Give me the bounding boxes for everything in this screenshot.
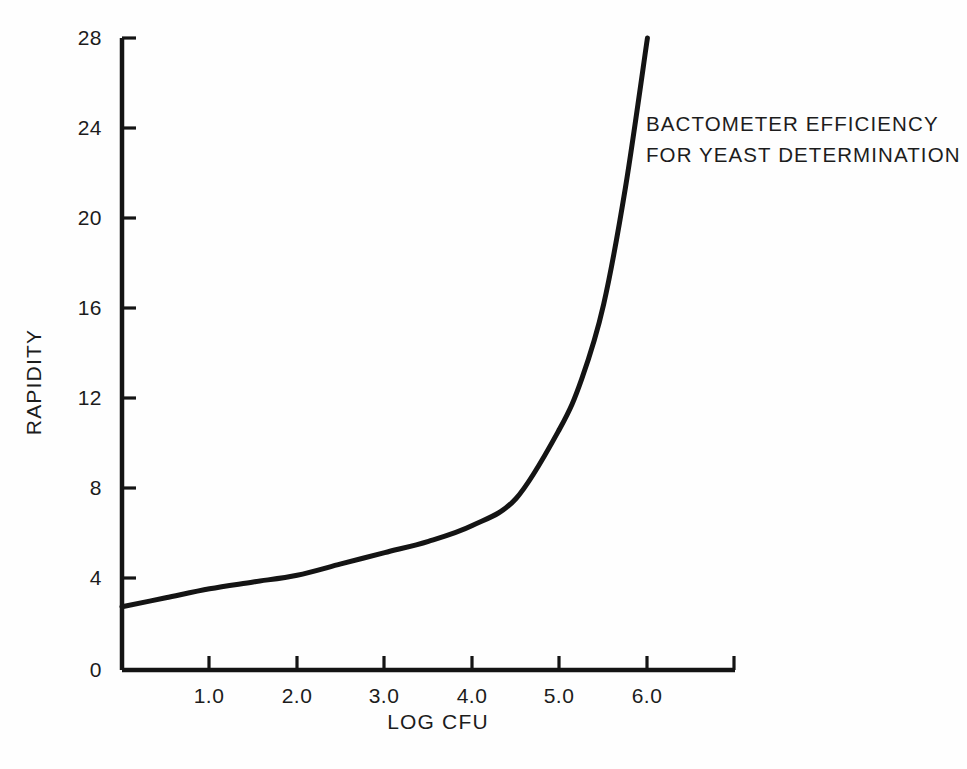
x-tick-label-2: 2.0	[282, 684, 313, 708]
annotation-line-2: FOR YEAST DETERMINATION	[646, 139, 961, 170]
annotation-line-1: BACTOMETER EFFICIENCY	[646, 108, 961, 139]
x-tick-label-3: 3.0	[369, 684, 400, 708]
y-axis-title: RAPIDITY	[22, 329, 46, 435]
y-tick-label-16: 16	[60, 296, 102, 320]
data-series-curve	[122, 38, 647, 607]
y-tick-label-20: 20	[60, 206, 102, 230]
x-tick-label-6: 6.0	[632, 684, 663, 708]
y-tick-label-8: 8	[60, 476, 102, 500]
x-axis-title: LOG CFU	[387, 710, 489, 734]
y-tick-label-0: 0	[60, 658, 102, 682]
y-tick-label-4: 4	[60, 566, 102, 590]
x-tick-label-1: 1.0	[194, 684, 225, 708]
chart-figure: 28 24 20 16 12 8 4 0 1.0 2.0 3.0 4.0 5.0…	[0, 0, 967, 769]
y-tick-label-24: 24	[60, 116, 102, 140]
x-tick-label-5: 5.0	[544, 684, 575, 708]
y-tick-label-28: 28	[60, 26, 102, 50]
chart-annotation: BACTOMETER EFFICIENCY FOR YEAST DETERMIN…	[646, 108, 961, 170]
y-tick-label-12: 12	[60, 386, 102, 410]
x-tick-label-4: 4.0	[457, 684, 488, 708]
